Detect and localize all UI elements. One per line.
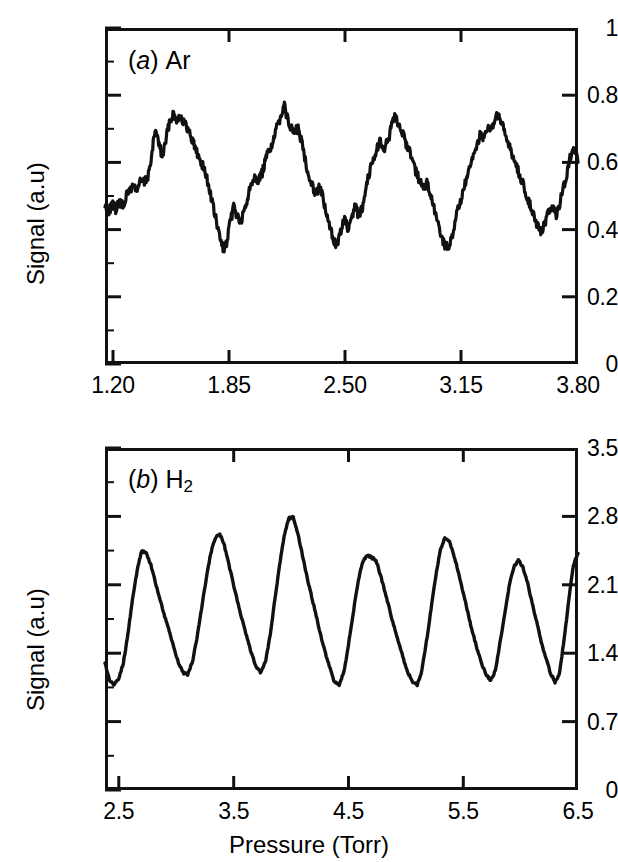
panel-b-data-trace [105,516,578,685]
figure-container: Signal (a.u) [0,0,618,862]
panel-b-xlabel: Pressure (Torr) [0,831,618,859]
panel-a-tag-species: Ar [166,46,191,74]
panel-b-ytick-4: 2.8 [520,503,618,530]
panel-b-ytick-2: 1.4 [520,640,618,667]
panel-a-top-ticks [229,28,461,42]
panel-b-tag: (b) H2 [128,465,193,497]
panel-a-tag-letter: a [136,46,150,74]
panel-a-xtick-0: 1.20 [91,372,135,399]
panel-a-left-minor-ticks [105,62,114,331]
panel-a-ytick-3: 0.6 [520,149,618,176]
panel-a-ytick-2: 0.4 [520,216,618,243]
panel-b-tag-species: H [166,465,184,493]
panel-b-tag-letter: b [136,465,150,493]
panel-a-data-trace [105,102,578,252]
panel-b-xtick-0: 2.5 [103,798,134,825]
panel-b-top-ticks [234,448,464,462]
panel-a-tag: (a) Ar [128,46,191,75]
panel-a-xtick-1: 1.85 [207,372,251,399]
panel-a-ytick-4: 0.8 [520,82,618,109]
panel-b-xtick-4: 6.5 [562,798,593,825]
panel-a-ytick-1: 0.2 [520,283,618,310]
panel-b-h2: Signal (a.u) [0,431,618,862]
panel-b-tag-subscript: 2 [184,477,193,496]
panel-b-bottom-ticks [119,776,464,790]
panel-a-ar: Signal (a.u) [0,0,618,420]
panel-b-right-ticks [562,516,578,721]
panel-a-xtick-3: 3.15 [439,372,483,399]
panel-a-ytick-5: 1 [520,15,618,42]
panel-a-right-ticks [562,95,578,297]
panel-b-ytick-5: 3.5 [520,435,618,462]
panel-b-ytick-3: 2.1 [520,571,618,598]
panel-b-xtick-2: 4.5 [333,798,364,825]
panel-b-ytick-1: 0.7 [520,708,618,735]
panel-b-left-minor-ticks [105,482,114,756]
panel-a-xtick-2: 2.50 [323,372,367,399]
panel-b-xtick-3: 5.5 [448,798,479,825]
panel-a-xtick-4: 3.80 [556,372,600,399]
panel-a-bottom-ticks [113,350,461,364]
panel-b-xtick-1: 3.5 [218,798,249,825]
